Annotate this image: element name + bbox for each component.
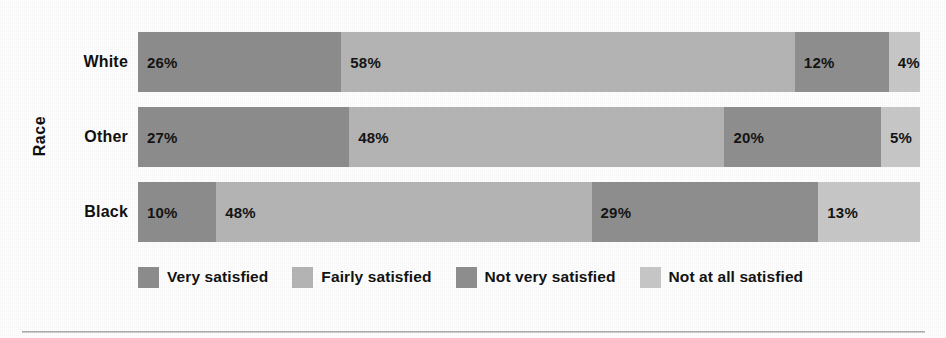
stacked-bar: 26% 58% 12% 4%: [138, 32, 920, 92]
bar-segment-not-at-all-satisfied[interactable]: 4%: [889, 32, 920, 92]
chart-figure: Race White 26% 58% 12% 4% Ot: [0, 0, 946, 338]
category-label: White: [58, 32, 128, 92]
legend-swatch-icon: [456, 267, 477, 288]
bar-segment-not-very-satisfied[interactable]: 20%: [724, 107, 880, 167]
stacked-bar: 27% 48% 20% 5%: [138, 107, 920, 167]
segment-value-label: 27%: [138, 129, 178, 146]
segment-value-label: 48%: [216, 204, 256, 221]
segment-value-label: 48%: [349, 129, 389, 146]
bar-segment-not-very-satisfied[interactable]: 29%: [592, 182, 819, 242]
chart-legend: Very satisfied Fairly satisfied Not very…: [138, 262, 928, 292]
legend-label: Not at all satisfied: [669, 268, 804, 286]
bar-segment-fairly-satisfied[interactable]: 48%: [349, 107, 724, 167]
footer-divider: [22, 331, 925, 333]
legend-item-fairly-satisfied[interactable]: Fairly satisfied: [292, 267, 431, 288]
segment-value-label: 12%: [795, 54, 835, 71]
legend-swatch-icon: [640, 267, 661, 288]
segment-value-label: 4%: [889, 54, 920, 71]
category-label: Other: [58, 107, 128, 167]
segment-value-label: 10%: [138, 204, 178, 221]
stacked-bar: 10% 48% 29% 13%: [138, 182, 920, 242]
segment-value-label: 29%: [592, 204, 632, 221]
bar-segment-not-at-all-satisfied[interactable]: 13%: [818, 182, 920, 242]
segment-value-label: 5%: [881, 129, 912, 146]
segment-value-label: 26%: [138, 54, 178, 71]
bar-row: White 26% 58% 12% 4%: [0, 32, 946, 92]
legend-swatch-icon: [138, 267, 159, 288]
bar-segment-very-satisfied[interactable]: 10%: [138, 182, 216, 242]
bar-segment-not-very-satisfied[interactable]: 12%: [795, 32, 889, 92]
legend-label: Not very satisfied: [485, 268, 616, 286]
legend-item-not-at-all-satisfied[interactable]: Not at all satisfied: [640, 267, 804, 288]
legend-item-very-satisfied[interactable]: Very satisfied: [138, 267, 268, 288]
legend-label: Fairly satisfied: [321, 268, 431, 286]
bar-row: Other 27% 48% 20% 5%: [0, 107, 946, 167]
bar-segment-not-at-all-satisfied[interactable]: 5%: [881, 107, 920, 167]
bar-segment-very-satisfied[interactable]: 26%: [138, 32, 341, 92]
legend-swatch-icon: [292, 267, 313, 288]
segment-value-label: 13%: [818, 204, 858, 221]
plot-area: White 26% 58% 12% 4% Other: [0, 0, 946, 260]
segment-value-label: 58%: [341, 54, 381, 71]
bar-row: Black 10% 48% 29% 13%: [0, 182, 946, 242]
bar-segment-fairly-satisfied[interactable]: 58%: [341, 32, 795, 92]
bar-segment-fairly-satisfied[interactable]: 48%: [216, 182, 591, 242]
legend-item-not-very-satisfied[interactable]: Not very satisfied: [456, 267, 616, 288]
legend-label: Very satisfied: [167, 268, 268, 286]
segment-value-label: 20%: [724, 129, 764, 146]
bar-segment-very-satisfied[interactable]: 27%: [138, 107, 349, 167]
category-label: Black: [58, 182, 128, 242]
